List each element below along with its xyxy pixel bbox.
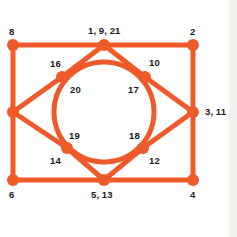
right-edge-strip [229, 0, 237, 237]
node-bottom-center-label: 5, 13 [91, 190, 113, 200]
node-inner-lower-left-label: 19 [69, 131, 80, 141]
label-14: 14 [50, 156, 61, 166]
node-bottom-right-label: 4 [190, 190, 195, 200]
node-inner-lower-left[interactable] [61, 142, 73, 154]
node-bottom-center[interactable] [98, 174, 110, 186]
label-20: 20 [70, 85, 81, 95]
node-middle-right-label: 3, 11 [205, 107, 226, 117]
node-inner-lower-right[interactable] [137, 142, 149, 154]
node-middle-right[interactable] [187, 106, 199, 118]
node-inner-upper-right[interactable] [139, 71, 151, 83]
node-top-center-label: 1, 9, 21 [88, 26, 121, 36]
node-bottom-left[interactable] [7, 174, 19, 186]
node-top-right[interactable] [187, 39, 199, 51]
node-top-left-label: 8 [9, 27, 14, 37]
node-inner-lower-right-label: 18 [129, 131, 140, 141]
node-middle-left[interactable] [7, 106, 19, 118]
node-top-center[interactable] [98, 39, 110, 51]
diagram-canvas: 81, 9, 2123, 1165, 1341610191820171412 [0, 0, 237, 237]
label-17: 17 [128, 85, 139, 95]
node-inner-upper-left-label: 16 [50, 59, 61, 69]
label-12: 12 [149, 156, 160, 166]
node-top-right-label: 2 [190, 27, 195, 37]
node-bottom-right[interactable] [187, 174, 199, 186]
node-bottom-left-label: 6 [9, 190, 14, 200]
node-top-left[interactable] [7, 39, 19, 51]
node-inner-upper-left[interactable] [56, 71, 68, 83]
node-inner-upper-right-label: 10 [149, 58, 160, 68]
